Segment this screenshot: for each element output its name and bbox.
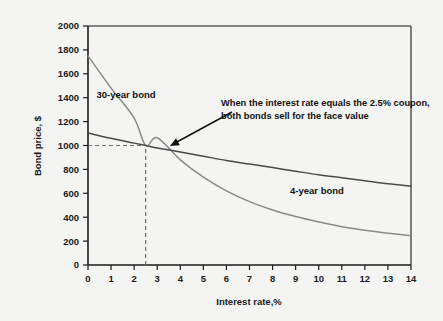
chart-figure: 0200400600800100012001400160018002000 Bo…	[0, 0, 443, 321]
y-tick-label: 1600	[58, 68, 79, 79]
x-tick-label: 11	[337, 273, 348, 284]
x-tick-label: 6	[224, 273, 229, 284]
y-tick-label: 0	[74, 259, 79, 270]
series-label-30-year-bond: 30-year bond	[96, 89, 155, 100]
annotation-line-2: both bonds sell for the face value	[221, 111, 369, 121]
x-tick-label: 9	[293, 273, 298, 284]
bond-price-chart-svg: 0200400600800100012001400160018002000 Bo…	[0, 0, 443, 321]
x-tick-label: 0	[85, 273, 90, 284]
y-axis-title: Bond price, $	[32, 115, 43, 176]
x-tick-label: 7	[247, 273, 252, 284]
x-tick-label: 2	[131, 273, 136, 284]
x-axis-title: Interest rate,%	[216, 296, 282, 307]
y-tick-label: 1000	[58, 140, 79, 151]
x-tick-label: 12	[360, 273, 371, 284]
x-tick-label: 14	[406, 273, 417, 284]
x-tick-label: 3	[155, 273, 160, 284]
y-tick-label: 1400	[58, 92, 79, 103]
y-tick-label: 400	[63, 212, 79, 223]
x-tick-label: 5	[201, 273, 207, 284]
y-tick-label: 1200	[58, 116, 79, 127]
x-tick-label: 4	[178, 273, 184, 284]
y-tick-label: 200	[63, 236, 79, 247]
x-tick-label: 13	[383, 273, 394, 284]
y-tick-label: 800	[63, 164, 79, 175]
x-tick-label: 10	[313, 273, 324, 284]
annotation-line-1: When the interest rate equals the 2.5% c…	[221, 98, 430, 108]
y-tick-label: 2000	[58, 20, 79, 31]
series-label-4-year-bond: 4-year bond	[290, 185, 344, 196]
y-tick-label: 600	[63, 188, 79, 199]
y-tick-label: 1800	[58, 44, 79, 55]
x-tick-label: 8	[270, 273, 275, 284]
x-tick-label: 1	[108, 273, 114, 284]
